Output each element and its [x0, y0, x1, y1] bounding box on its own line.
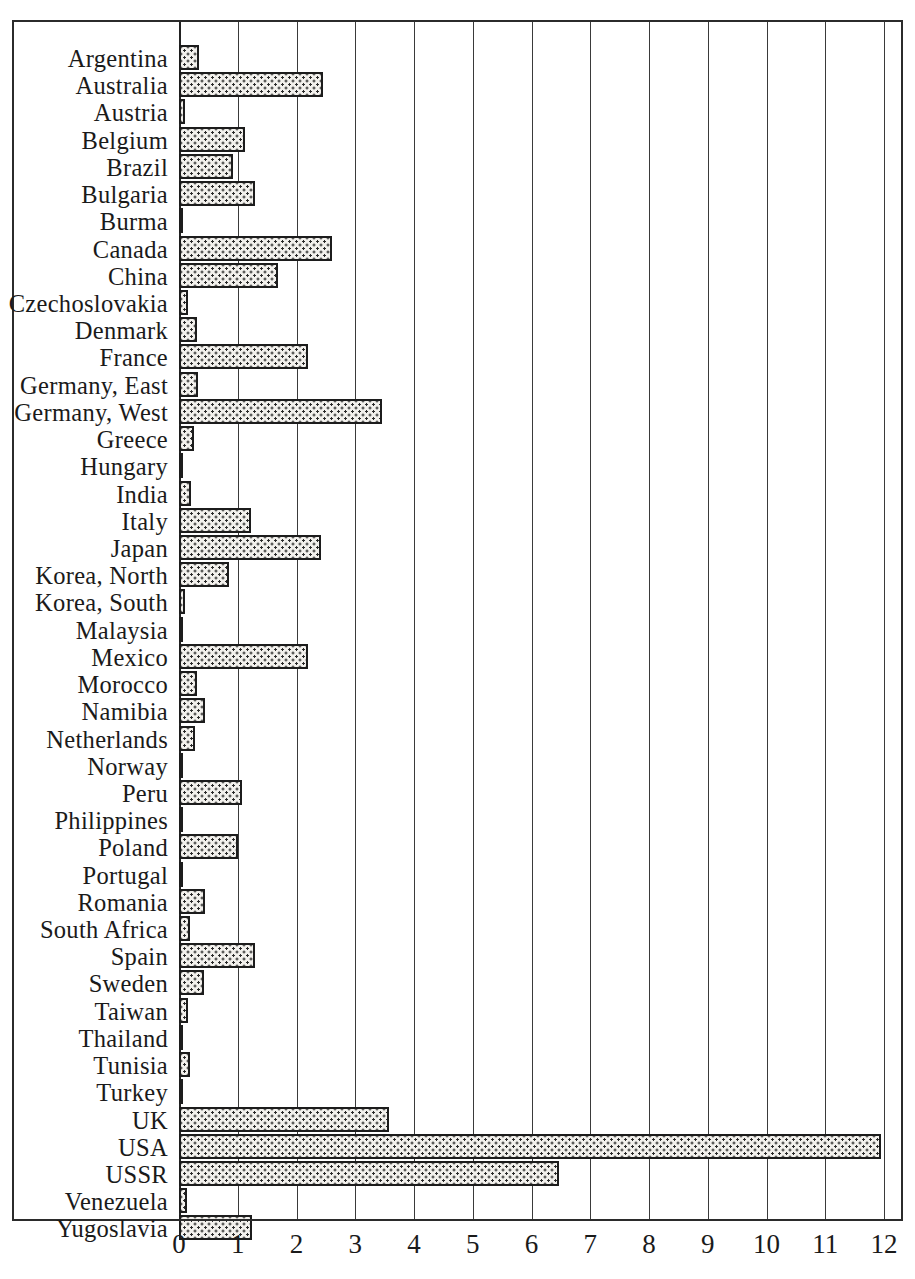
x-tick-label-1: 1: [208, 1228, 268, 1260]
bar-venezuela: [179, 1188, 187, 1213]
bar-south-africa: [179, 916, 190, 941]
bar-brazil: [179, 154, 233, 179]
category-label-korea-north: Korea, North: [0, 563, 168, 589]
gridline-4: [414, 22, 415, 1219]
gridline-12: [884, 22, 885, 1219]
bar-taiwan: [179, 998, 188, 1023]
bar-denmark: [179, 317, 197, 342]
category-label-austria: Austria: [0, 100, 168, 126]
category-label-norway: Norway: [0, 754, 168, 780]
bar-netherlands: [179, 726, 195, 751]
category-label-mexico: Mexico: [0, 645, 168, 671]
bar-france: [179, 344, 308, 369]
x-tick-label-12: 12: [854, 1228, 914, 1260]
category-label-germany-east: Germany, East: [0, 373, 168, 399]
bar-morocco: [179, 671, 197, 696]
category-label-peru: Peru: [0, 781, 168, 807]
bar-portugal: [179, 862, 183, 887]
bar-bulgaria: [179, 181, 255, 206]
bar-italy: [179, 508, 251, 533]
category-label-korea-south: Korea, South: [0, 590, 168, 616]
category-label-germany-west: Germany, West: [0, 400, 168, 426]
category-label-china: China: [0, 264, 168, 290]
category-label-czechoslovakia: Czechoslovakia: [0, 291, 168, 317]
bar-greece: [179, 426, 194, 451]
category-label-philippines: Philippines: [0, 808, 168, 834]
category-label-uk: UK: [0, 1108, 168, 1134]
category-label-malaysia: Malaysia: [0, 618, 168, 644]
bar-china: [179, 263, 278, 288]
bar-spain: [179, 943, 255, 968]
category-label-romania: Romania: [0, 890, 168, 916]
category-label-india: India: [0, 482, 168, 508]
category-label-south-africa: South Africa: [0, 917, 168, 943]
bar-argentina: [179, 45, 199, 70]
bar-austria: [179, 99, 185, 124]
category-label-brazil: Brazil: [0, 155, 168, 181]
x-tick-label-7: 7: [560, 1228, 620, 1260]
category-label-thailand: Thailand: [0, 1026, 168, 1052]
bar-ussr: [179, 1161, 559, 1186]
category-label-morocco: Morocco: [0, 672, 168, 698]
x-tick-label-0: 0: [149, 1228, 209, 1260]
category-label-tunisia: Tunisia: [0, 1053, 168, 1079]
category-label-argentina: Argentina: [0, 46, 168, 72]
bar-uk: [179, 1107, 389, 1132]
plot-area: [179, 22, 885, 1219]
category-label-yugoslavia: Yugoslavia: [0, 1216, 168, 1242]
bar-philippines: [179, 807, 183, 832]
bar-germany-west: [179, 399, 382, 424]
category-label-turkey: Turkey: [0, 1080, 168, 1106]
bar-hungary: [179, 453, 183, 478]
category-label-denmark: Denmark: [0, 318, 168, 344]
x-tick-label-5: 5: [443, 1228, 503, 1260]
bar-australia: [179, 72, 323, 97]
bar-usa: [179, 1134, 881, 1159]
category-label-japan: Japan: [0, 536, 168, 562]
category-label-australia: Australia: [0, 73, 168, 99]
category-label-venezuela: Venezuela: [0, 1189, 168, 1215]
x-tick-label-9: 9: [678, 1228, 738, 1260]
bar-thailand: [179, 1025, 183, 1050]
bar-malaysia: [179, 617, 183, 642]
bar-romania: [179, 889, 205, 914]
bar-korea-south: [179, 589, 185, 614]
gridline-5: [473, 22, 474, 1219]
category-label-burma: Burma: [0, 209, 168, 235]
bar-india: [179, 481, 191, 506]
category-label-italy: Italy: [0, 509, 168, 535]
gridline-10: [767, 22, 768, 1219]
category-label-belgium: Belgium: [0, 128, 168, 154]
x-tick-label-11: 11: [795, 1228, 855, 1260]
gridline-6: [532, 22, 533, 1219]
gridline-2: [297, 22, 298, 1219]
bar-belgium: [179, 127, 245, 152]
x-tick-label-4: 4: [384, 1228, 444, 1260]
x-tick-label-2: 2: [267, 1228, 327, 1260]
category-label-poland: Poland: [0, 835, 168, 861]
category-label-sweden: Sweden: [0, 971, 168, 997]
category-label-france: France: [0, 345, 168, 371]
bar-tunisia: [179, 1052, 190, 1077]
category-label-bulgaria: Bulgaria: [0, 182, 168, 208]
bar-peru: [179, 780, 242, 805]
x-tick-label-10: 10: [737, 1228, 797, 1260]
category-label-hungary: Hungary: [0, 454, 168, 480]
gridline-7: [590, 22, 591, 1219]
bar-namibia: [179, 698, 205, 723]
category-label-greece: Greece: [0, 427, 168, 453]
bar-canada: [179, 236, 332, 261]
bar-germany-east: [179, 372, 198, 397]
bar-mexico: [179, 644, 308, 669]
category-label-taiwan: Taiwan: [0, 999, 168, 1025]
gridline-11: [825, 22, 826, 1219]
category-label-namibia: Namibia: [0, 699, 168, 725]
category-label-portugal: Portugal: [0, 863, 168, 889]
bar-turkey: [179, 1079, 183, 1104]
horizontal-bar-chart: ArgentinaAustraliaAustriaBelgiumBrazilBu…: [0, 0, 915, 1279]
bar-sweden: [179, 970, 204, 995]
x-tick-label-8: 8: [619, 1228, 679, 1260]
bar-burma: [179, 208, 183, 233]
x-tick-label-6: 6: [502, 1228, 562, 1260]
bar-korea-north: [179, 562, 229, 587]
